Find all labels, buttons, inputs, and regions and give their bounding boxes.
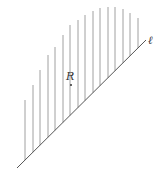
- region-label-r: R: [65, 70, 74, 83]
- boundary-line-l: [17, 40, 146, 168]
- half-plane-diagram: ℓ R: [0, 0, 157, 179]
- line-label-l: ℓ: [148, 34, 153, 47]
- region-hatching: [25, 7, 138, 160]
- region-point: [70, 84, 72, 86]
